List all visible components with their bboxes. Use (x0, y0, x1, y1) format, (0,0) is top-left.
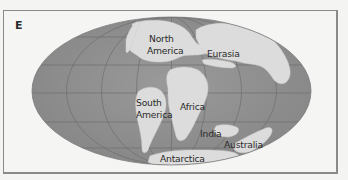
label-eurasia: Eurasia (207, 48, 240, 59)
label-africa: Africa (180, 101, 205, 112)
label-south-america-line1: South (136, 97, 162, 108)
label-north-america-line1: North (149, 33, 174, 44)
label-north-america-line2: America (147, 45, 184, 56)
label-india: India (200, 128, 222, 139)
label-antarctica: Antarctica (160, 153, 205, 164)
world-map: North America Eurasia South America Afri… (0, 0, 348, 180)
label-australia: Australia (224, 139, 263, 150)
label-south-america-line2: America (136, 109, 173, 120)
